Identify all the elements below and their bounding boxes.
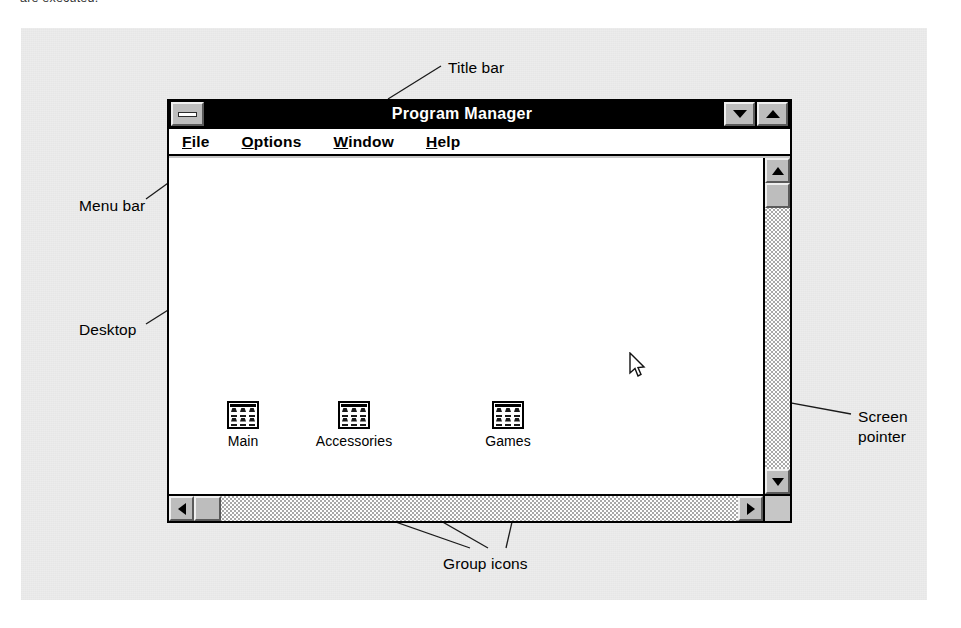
menu-item-window[interactable]: Window — [333, 133, 393, 151]
title-bar: Program Manager — [169, 101, 790, 129]
menu-accel-o: O — [242, 133, 254, 150]
group-icon-label: Accessories — [308, 433, 400, 449]
menu-item-options[interactable]: Options — [242, 133, 302, 151]
program-group-icon — [338, 401, 370, 429]
minimize-button[interactable] — [724, 102, 755, 126]
control-menu-box-button[interactable] — [171, 102, 204, 126]
desktop-workspace[interactable]: Main Accessories — [169, 158, 763, 494]
vertical-scroll-thumb[interactable] — [765, 183, 790, 208]
group-icon-main[interactable]: Main — [197, 401, 289, 449]
scroll-left-button[interactable] — [169, 496, 194, 521]
triangle-down-icon — [733, 110, 747, 118]
scroll-up-button[interactable] — [765, 158, 790, 183]
arrow-down-icon — [772, 478, 784, 486]
minimize-bar-icon — [178, 112, 197, 117]
window-title: Program Manager — [204, 105, 724, 123]
menu-label-window: indow — [348, 133, 394, 150]
horizontal-scroll-thumb[interactable] — [194, 496, 221, 521]
client-area: Main Accessories — [169, 158, 790, 521]
triangle-up-icon — [766, 110, 780, 118]
annotation-screen-pointer: Screen pointer — [858, 407, 908, 448]
horizontal-scrollbar[interactable] — [169, 494, 763, 521]
group-icon-accessories[interactable]: Accessories — [308, 401, 400, 449]
arrow-left-icon — [178, 503, 186, 515]
vertical-scroll-track[interactable] — [765, 183, 790, 469]
annotation-menu-bar: Menu bar — [79, 196, 145, 216]
program-manager-window: Program Manager File Options Window Help — [167, 99, 792, 523]
annotation-group-icons: Group icons — [443, 554, 528, 574]
arrow-right-icon — [747, 503, 755, 515]
scrollbar-corner — [763, 494, 790, 521]
menu-accel-w: W — [333, 133, 348, 150]
annotation-title-bar: Title bar — [448, 58, 504, 78]
menu-label-options: ptions — [254, 133, 302, 150]
annotation-desktop: Desktop — [79, 320, 137, 340]
arrow-up-icon — [772, 167, 784, 175]
scroll-right-button[interactable] — [738, 496, 763, 521]
menu-label-file: ile — [192, 133, 210, 150]
menu-bar: File Options Window Help — [169, 129, 790, 156]
menu-label-help: elp — [437, 133, 460, 150]
mouse-arrow-pointer-icon — [627, 352, 647, 380]
menu-item-help[interactable]: Help — [426, 133, 460, 151]
program-group-icon — [227, 401, 259, 429]
menu-accel-f: F — [182, 133, 192, 150]
vertical-scrollbar[interactable] — [763, 158, 790, 494]
group-icon-label: Main — [197, 433, 289, 449]
horizontal-scroll-track[interactable] — [194, 496, 738, 521]
menu-accel-h: H — [426, 133, 437, 150]
program-group-icon — [492, 401, 524, 429]
group-icon-games[interactable]: Games — [462, 401, 554, 449]
maximize-button[interactable] — [757, 102, 788, 126]
menu-item-file[interactable]: File — [182, 133, 210, 151]
group-icon-label: Games — [462, 433, 554, 449]
scroll-down-button[interactable] — [765, 469, 790, 494]
